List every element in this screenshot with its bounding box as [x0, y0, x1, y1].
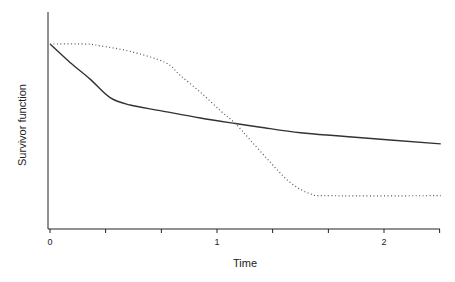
y-axis-title: Survivor function	[16, 84, 28, 166]
x-axis-ticks: 012	[47, 229, 439, 247]
survivor-function-chart: 012 Time Survivor function	[0, 0, 455, 282]
x-axis-title: Time	[233, 257, 257, 269]
plot-area	[50, 44, 441, 196]
series-line-solid	[50, 44, 441, 144]
x-tick-label: 2	[381, 237, 386, 247]
x-tick-label: 0	[47, 237, 52, 247]
x-tick-label: 1	[214, 237, 219, 247]
series-line-dotted	[50, 44, 441, 196]
